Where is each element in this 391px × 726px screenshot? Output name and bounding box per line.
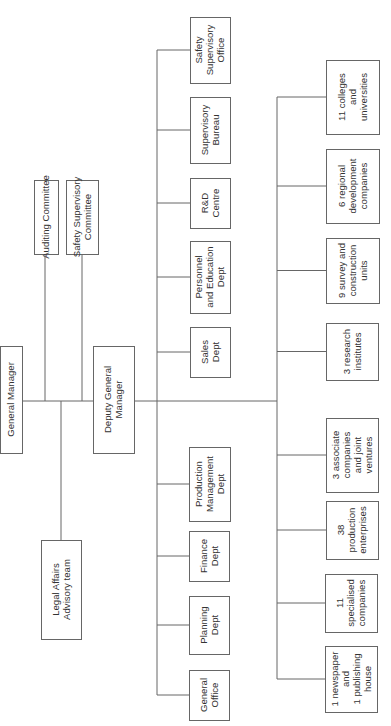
specialised-node-label-line: specialised <box>345 579 356 626</box>
general-manager-node-label: General Manager <box>5 361 16 436</box>
production-ent-node-label-line: 38 <box>335 525 346 536</box>
rd-centre-node-label-line: Centre <box>210 189 221 218</box>
deputy-general-manager-node-label-line: Deputy General <box>102 366 113 433</box>
supervisory-bureau-node-label-line: Bureau <box>210 115 221 146</box>
safety-office-node-label-line: Supervisory <box>204 24 215 75</box>
rd-centre-node: R&DCentre <box>191 179 231 229</box>
sales-node-label-line: Sales <box>199 340 210 364</box>
colleges-node: 11 collegesanduniversities <box>327 61 380 135</box>
production-mgmt-node-label-line: Dept <box>215 474 226 495</box>
personnel-node: Personneland EducationDept <box>191 242 231 314</box>
associates-node: 3 associatecompaniesand jointventures <box>327 419 379 493</box>
specialised-node-label-line: 11 <box>334 598 345 608</box>
rd-centre-node-label-line: R&D <box>199 193 210 213</box>
safety-committee-node: Safety SupervisoryCommittee <box>67 177 99 258</box>
planning-node-label-line: Dept <box>209 615 220 636</box>
production-ent-node-label-line: enterprises <box>357 506 368 554</box>
auditing-node: Auditing Committee <box>35 175 59 259</box>
newspaper-node-label-line: house <box>362 666 373 692</box>
production-mgmt-node: ProductionManagementDept <box>190 448 231 522</box>
org-nodes: General ManagerAuditing CommitteeSafety … <box>1 18 380 721</box>
personnel-node-label-line: Dept <box>215 267 226 288</box>
auditing-node-label-line: Auditing Committee <box>40 175 51 259</box>
auditing-node-label: Auditing Committee <box>40 175 51 259</box>
finance-node-label-line: Dept <box>209 546 220 567</box>
associates-node-label-line: ventures <box>363 436 374 473</box>
deputy-general-manager-node-label-line: Manager <box>113 380 124 419</box>
regional-dev-node-label-line: development <box>347 158 358 213</box>
general-office-node-label: GeneralOffice <box>198 678 220 712</box>
associates-node-label-line: and joint <box>352 437 363 474</box>
colleges-node-label-line: and <box>347 89 358 105</box>
newspaper-node: 1 newspaperand1 publishinghouse <box>326 647 378 713</box>
colleges-node-label-line: 11 colleges <box>336 73 347 121</box>
safety-office-node-label-line: Safety <box>193 36 204 63</box>
production-mgmt-node-label-line: Management <box>204 456 215 512</box>
sales-node-label: SalesDept <box>199 340 221 364</box>
safety-committee-node-label-line: Committee <box>82 194 93 240</box>
general-manager-node: General Manager <box>1 347 23 454</box>
research-node-label: 3 researchinstitutes <box>341 329 363 374</box>
sales-node-label-line: Dept <box>210 342 221 363</box>
safety-office-node-label-line: Office <box>215 38 226 63</box>
planning-node-label-line: Planning <box>198 606 209 643</box>
production-ent-node: 38productionenterprises <box>327 502 379 560</box>
newspaper-node-label-line: 1 newspaper <box>329 651 340 707</box>
regional-dev-node-label: 6 regionaldevelopmentcompanies <box>336 158 369 213</box>
general-manager-node-label-line: General Manager <box>5 361 16 436</box>
rd-centre-node-label: R&DCentre <box>199 189 221 218</box>
finance-node-label-line: Finance <box>198 539 209 573</box>
research-node-label-line: 3 research <box>341 329 352 374</box>
general-office-node-label-line: General <box>198 678 209 712</box>
legal-node-label-line: Legal Affairs <box>50 563 61 616</box>
deputy-general-manager-node: Deputy GeneralManager <box>94 347 135 454</box>
finance-node: FinanceDept <box>190 532 230 582</box>
production-mgmt-node-label-line: Production <box>193 461 204 507</box>
research-node-label-line: institutes <box>352 332 363 370</box>
safety-office-node: SafetySupervisoryOffice <box>191 18 231 84</box>
associates-node-label-line: companies <box>341 432 352 479</box>
research-node: 3 researchinstitutes <box>327 324 379 381</box>
specialised-node: 11specialisedcompanies <box>326 575 378 633</box>
personnel-node-label-line: and Education <box>204 246 215 307</box>
planning-node: PlanningDept <box>190 597 230 655</box>
survey-node-label-line: construction <box>347 245 358 297</box>
specialised-node-label-line: companies <box>356 580 367 627</box>
regional-dev-node-label-line: 6 regional <box>336 165 347 207</box>
org-chart: General ManagerAuditing CommitteeSafety … <box>0 0 391 726</box>
sales-node: SalesDept <box>191 328 231 378</box>
general-office-node-label-line: Office <box>209 683 220 708</box>
regional-dev-node-label-line: companies <box>358 163 369 210</box>
associates-node-label-line: 3 associate <box>330 431 341 480</box>
general-office-node: GeneralOffice <box>190 671 230 721</box>
production-ent-node-label-line: production <box>346 508 357 553</box>
survey-node-label-line: units <box>358 260 369 280</box>
regional-dev-node: 6 regionaldevelopmentcompanies <box>327 150 380 224</box>
legal-node-label-line: Advisory team <box>61 559 72 620</box>
associates-node-label: 3 associatecompaniesand jointventures <box>330 431 374 480</box>
newspaper-node-label-line: 1 publishing <box>351 653 362 704</box>
legal-node: Legal AffairsAdvisory team <box>42 541 82 640</box>
colleges-node-label-line: universities <box>358 73 369 121</box>
legal-node-label: Legal AffairsAdvisory team <box>50 559 72 620</box>
safety-committee-node-label-line: Safety Supervisory <box>71 177 82 258</box>
newspaper-node-label-line: and <box>340 671 351 687</box>
personnel-node-label-line: Personnel <box>193 255 204 298</box>
supervisory-bureau-node-label-line: Supervisory <box>199 104 210 155</box>
survey-node: 9 survey andconstructionunits <box>327 239 380 304</box>
survey-node-label-line: 9 survey and <box>336 243 347 298</box>
supervisory-bureau-node: SupervisoryBureau <box>191 98 231 164</box>
